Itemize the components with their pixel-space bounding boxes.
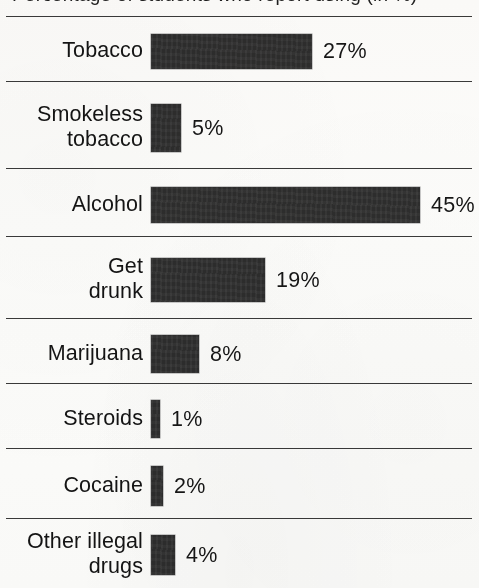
row-separator xyxy=(6,81,472,82)
bar-row: Marijuana8% xyxy=(0,322,479,386)
row-separator xyxy=(6,448,472,449)
bar-value-label: 5% xyxy=(192,118,224,140)
row-label: Smokeless tobacco xyxy=(0,102,143,152)
bar xyxy=(151,335,199,373)
bar xyxy=(151,466,163,506)
row-label: Steroids xyxy=(0,406,143,431)
bar-row: Cocaine2% xyxy=(0,452,479,520)
chart-title-clipped: Percentage of students who report using … xyxy=(0,0,479,6)
bar-row: Steroids1% xyxy=(0,387,479,451)
bar-row: Smokeless tobacco5% xyxy=(0,85,479,171)
row-label: Marijuana xyxy=(0,341,143,366)
row-separator xyxy=(6,16,472,17)
bar-row: Other illegal drugs4% xyxy=(0,522,479,588)
bar-row: Alcohol45% xyxy=(0,172,479,238)
row-label: Cocaine xyxy=(0,473,143,498)
bar-value-label: 4% xyxy=(186,545,218,567)
row-label: Get drunk xyxy=(0,254,143,304)
page-title: Percentage of students who report using … xyxy=(0,0,479,6)
bar xyxy=(151,535,175,575)
row-separator xyxy=(6,168,472,169)
bar-row: Get drunk19% xyxy=(0,240,479,320)
row-separator xyxy=(6,318,472,319)
row-label: Tobacco xyxy=(0,38,143,63)
chart-page: Percentage of students who report using … xyxy=(0,0,479,588)
bar-value-label: 45% xyxy=(431,195,475,217)
bar xyxy=(151,34,312,69)
bar-value-label: 19% xyxy=(276,270,320,292)
bar-row: Tobacco27% xyxy=(0,20,479,82)
bar xyxy=(151,400,160,438)
bar xyxy=(151,187,420,223)
row-label: Other illegal drugs xyxy=(0,529,143,579)
bar-value-label: 27% xyxy=(323,41,367,63)
bar-value-label: 2% xyxy=(174,476,206,498)
row-separator xyxy=(6,383,472,384)
row-separator xyxy=(6,236,472,237)
row-separator xyxy=(6,518,472,519)
bar xyxy=(151,104,181,152)
bar xyxy=(151,258,265,302)
bar-value-label: 1% xyxy=(171,409,203,431)
row-label: Alcohol xyxy=(0,192,143,217)
bar-value-label: 8% xyxy=(210,344,242,366)
